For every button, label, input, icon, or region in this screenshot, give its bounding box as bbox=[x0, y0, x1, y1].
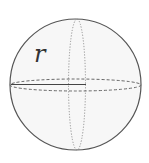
sphere-diagram: r bbox=[0, 0, 149, 163]
radius-label: r bbox=[34, 40, 47, 68]
